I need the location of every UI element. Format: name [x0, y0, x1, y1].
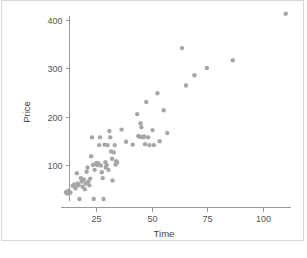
scatter-point — [146, 135, 150, 139]
scatter-point — [150, 128, 154, 132]
scatter-point — [105, 143, 109, 147]
scatter-point — [92, 197, 96, 201]
scatter-point — [87, 183, 91, 187]
scatter-point — [155, 91, 159, 95]
scatter-point — [108, 135, 112, 139]
scatter-point — [98, 135, 102, 139]
scatter-point — [100, 176, 104, 180]
scatter-point — [75, 171, 79, 175]
scatter-point — [112, 150, 116, 154]
scatter-point — [90, 135, 94, 139]
scatter-point — [99, 163, 103, 167]
scatter-point — [144, 100, 148, 104]
x-tick-label: 100 — [256, 214, 271, 224]
scatter-point — [110, 156, 114, 160]
scatter-point — [100, 170, 104, 174]
scatter-point — [106, 168, 110, 172]
scatter-point — [84, 170, 88, 174]
scatter-point — [68, 190, 72, 194]
scatter-point — [143, 142, 147, 146]
scatter-point — [77, 197, 81, 201]
scatter-point — [205, 66, 209, 70]
scatter-point — [76, 183, 80, 187]
scatter-point — [104, 163, 108, 167]
scatter-point — [85, 165, 89, 169]
scatter-point — [147, 143, 151, 147]
y-axis-title: Price — [21, 101, 32, 123]
scatter-point — [92, 168, 96, 172]
x-axis-ticks: 255075100 — [91, 208, 271, 224]
axes-layer — [61, 16, 291, 208]
x-axis-title: Time — [154, 228, 175, 239]
scatter-point — [284, 11, 288, 15]
y-tick-label: 400 — [47, 16, 62, 26]
data-points-layer — [64, 11, 288, 201]
scatter-point — [97, 143, 101, 147]
y-tick-label: 300 — [47, 64, 62, 74]
scatter-point — [131, 142, 135, 146]
scatter-point — [138, 121, 142, 125]
scatter-point — [83, 187, 87, 191]
scatter-point — [139, 125, 143, 129]
scatter-point — [184, 83, 188, 87]
x-tick-label: 75 — [202, 214, 212, 224]
scatter-point — [157, 139, 161, 143]
chart-canvas: 255075100 100200300400 Time Price — [0, 0, 307, 258]
y-axis-ticks: 100200300400 — [47, 16, 69, 171]
scatter-point — [165, 131, 169, 135]
scatter-point — [101, 197, 105, 201]
scatter-point — [152, 143, 156, 147]
scatter-point — [142, 134, 146, 138]
scatter-point — [88, 176, 92, 180]
x-tick-label: 50 — [147, 214, 157, 224]
scatter-point — [231, 58, 235, 62]
scatter-point — [82, 177, 86, 181]
scatter-point — [135, 112, 139, 116]
y-tick-label: 200 — [47, 113, 62, 123]
scatter-point — [192, 73, 196, 77]
scatter-point — [180, 46, 184, 50]
scatter-point — [110, 178, 114, 182]
scatter-point — [119, 127, 123, 131]
scatter-point — [107, 129, 111, 133]
x-tick-label: 25 — [91, 214, 101, 224]
scatter-point — [89, 154, 93, 158]
scatter-plot-figure: 255075100 100200300400 Time Price — [0, 0, 307, 258]
scatter-point — [124, 140, 128, 144]
y-tick-label: 100 — [47, 161, 62, 171]
scatter-point — [113, 162, 117, 166]
scatter-point — [113, 143, 117, 147]
scatter-point — [161, 108, 165, 112]
